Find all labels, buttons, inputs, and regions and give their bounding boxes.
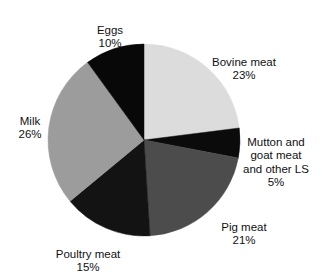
pie-label-milk-text: Milk — [20, 115, 40, 127]
pie-label-mutton-goat-meat-value: 5% — [230, 176, 322, 189]
pie-label-bovine-meat-text: Bovine meat — [212, 56, 276, 68]
pie-label-bovine-meat: Bovine meat 23% — [196, 43, 292, 96]
pie-label-eggs-text: Eggs — [97, 24, 123, 36]
pie-label-mutton-goat-meat: Mutton and goat meat and other LS 5% — [230, 123, 322, 202]
pie-label-eggs-value: 10% — [79, 37, 141, 50]
pie-label-eggs: Eggs 10% — [79, 11, 141, 64]
pie-chart: Bovine meat 23% Mutton and goat meat and… — [0, 0, 322, 276]
pie-label-pig-meat-value: 21% — [205, 234, 283, 247]
pie-label-poultry-meat-value: 15% — [36, 261, 140, 274]
pie-label-mutton-goat-meat-text: Mutton and goat meat and other LS — [243, 136, 309, 174]
pie-label-poultry-meat: Poultry meat 15% — [36, 235, 140, 276]
pie-label-pig-meat-text: Pig meat — [221, 221, 266, 233]
pie-label-milk: Milk 26% — [4, 102, 56, 155]
pie-label-pig-meat: Pig meat 21% — [205, 208, 283, 261]
pie-label-bovine-meat-value: 23% — [196, 69, 292, 82]
pie-label-milk-value: 26% — [4, 128, 56, 141]
pie-label-poultry-meat-text: Poultry meat — [56, 248, 121, 260]
